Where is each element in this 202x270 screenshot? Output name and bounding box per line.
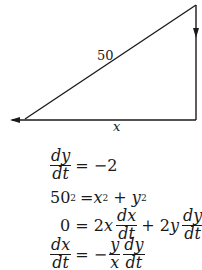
equation-1: dy dt = −2 bbox=[50, 148, 117, 183]
left-arrow-icon bbox=[10, 117, 20, 123]
fraction: dy dt bbox=[123, 237, 144, 270]
fraction: dx dt bbox=[50, 237, 71, 270]
right-triangle-diagram bbox=[0, 0, 202, 135]
equation-4: dx dt = − y x dy dt bbox=[50, 237, 145, 270]
down-arrow-icon bbox=[193, 28, 199, 38]
hypotenuse-label: 50 bbox=[97, 48, 114, 63]
fraction: y x bbox=[109, 237, 120, 270]
fraction: dy dt bbox=[50, 148, 71, 183]
equation-2: 502 = x2 + y2 bbox=[50, 188, 147, 207]
base-label: x bbox=[113, 119, 120, 134]
fraction: dy dt bbox=[182, 208, 202, 243]
